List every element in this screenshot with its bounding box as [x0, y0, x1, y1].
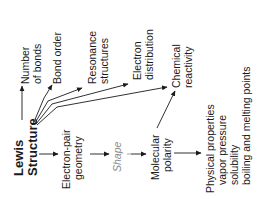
label-solubility: solubility	[228, 144, 240, 185]
label-physical-properties: Physical properties	[204, 104, 216, 193]
label-number-of-bonds-2: of bonds	[31, 44, 43, 84]
label-shape: Shape	[111, 141, 123, 172]
root-label-line1: Lewis	[11, 140, 26, 176]
label-boiling-melting: boiling and melting points	[240, 67, 252, 186]
label-electron-distribution-2: distribution	[143, 29, 155, 80]
label-electron-distribution-1: Electron	[131, 41, 143, 80]
arrow-to-resonance-structures	[35, 88, 82, 123]
lewis-structure-concept-map: Lewis Structure Number of bonds Bond ord…	[0, 0, 263, 199]
label-resonance-1: Resonance	[86, 31, 98, 84]
root-label-line2: Structure	[25, 118, 40, 176]
label-molecular-polarity-2: polarity	[161, 137, 173, 172]
label-number-of-bonds-1: Number	[19, 46, 31, 84]
arrow-to-electron-distribution	[36, 84, 128, 124]
label-chemical-reactivity-2: reactivity	[182, 46, 194, 88]
arrow-to-bond-order	[34, 85, 52, 122]
label-resonance-2: structures	[98, 38, 110, 84]
label-molecular-polarity-1: Molecular	[149, 134, 161, 180]
label-vapor-pressure: vapor pressure	[216, 115, 228, 185]
label-electron-pair-1: Electron-pair	[60, 129, 72, 189]
arrow-to-chemical-reactivity	[37, 87, 167, 125]
label-chemical-reactivity-1: Chemical	[170, 44, 182, 88]
arrow-polarity-to-reactivity	[157, 91, 175, 128]
label-electron-pair-2: geometry	[72, 135, 84, 180]
label-bond-order: Bond order	[51, 32, 63, 84]
